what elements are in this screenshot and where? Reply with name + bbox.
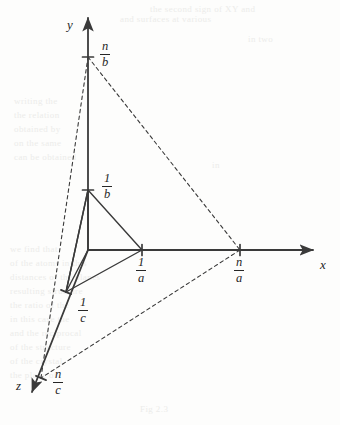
fraction-numerator: n — [53, 368, 63, 381]
fraction-numerator: 1 — [136, 256, 146, 269]
solid-triangle-edge — [88, 190, 142, 250]
axes-group — [32, 18, 313, 392]
dashed-triangle — [41, 57, 240, 378]
intercept-label-one-over-c: 1 c — [78, 296, 88, 325]
fraction-numerator: n — [234, 256, 244, 269]
axes-diagram — [0, 0, 340, 425]
intercept-label-n-over-a: n a — [234, 256, 244, 285]
fraction-denominator: c — [53, 384, 63, 397]
fraction-numerator: 1 — [78, 296, 88, 309]
fraction-denominator: b — [100, 56, 110, 69]
intercept-label-one-over-a: 1 a — [136, 256, 146, 285]
intercept-label-one-over-b: 1 b — [102, 172, 112, 201]
intercept-label-n-over-b: n b — [100, 40, 110, 69]
fraction-denominator: a — [136, 272, 146, 285]
figure-container: the second sign of XY andand surfaces at… — [0, 0, 340, 425]
axis-label-x: x — [320, 258, 326, 271]
tick-marks — [36, 57, 240, 380]
dashed-triangle-edge — [41, 57, 88, 378]
fraction-denominator: b — [102, 188, 112, 201]
axis-label-z: z — [16, 379, 21, 392]
dashed-triangle-edge — [88, 57, 240, 250]
fraction-numerator: n — [100, 40, 110, 53]
fraction-numerator: 1 — [102, 172, 112, 185]
intercept-label-n-over-c: n c — [53, 368, 63, 397]
fraction-denominator: a — [234, 272, 244, 285]
axis-label-y: y — [67, 18, 73, 31]
fraction-denominator: c — [78, 312, 88, 325]
